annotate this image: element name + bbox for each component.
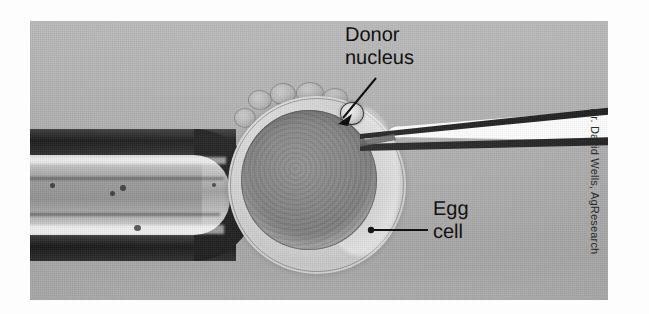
debris-speck: [50, 183, 55, 188]
holding-pipette-highlight-upper: [30, 157, 226, 164]
debris-speck: [110, 191, 115, 196]
holding-pipette-shadow-upper: [30, 177, 224, 180]
debris-speck: [134, 225, 141, 231]
holding-pipette-shadow-lower: [30, 213, 220, 216]
holding-pipette-highlight-lower: [30, 225, 224, 234]
photo-credit: Dr. David Wells, AgResearch: [589, 108, 601, 254]
debris-speck: [212, 183, 216, 187]
egg-cell-label: Egg cell: [433, 198, 469, 244]
injection-micropipette: [360, 107, 608, 159]
egg-cytoplasm: [241, 110, 377, 250]
figure-container: Donor nucleus Egg cell Dr. David Wells, …: [0, 0, 649, 314]
donor-nucleus-label: Donor nucleus: [345, 24, 414, 70]
holding-pipette: [30, 121, 256, 267]
debris-speck: [120, 185, 126, 191]
micropipette-shaft: [360, 107, 608, 159]
micropipette-wall-lower: [360, 137, 608, 151]
cytoplasm-edge: [241, 110, 377, 250]
cumulus-bump: [248, 90, 272, 110]
microscopy-photograph: [30, 21, 608, 300]
